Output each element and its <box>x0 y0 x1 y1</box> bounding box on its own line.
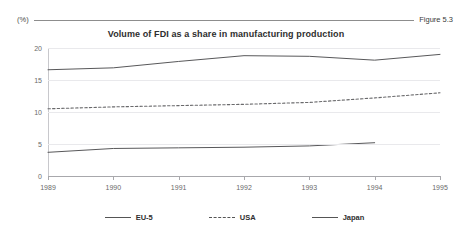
x-tick-label-1991: 1991 <box>171 184 187 191</box>
legend-swatch-japan-icon <box>312 217 338 218</box>
figure-number: Figure 5.3 <box>419 16 453 24</box>
series-line-usa <box>48 93 440 109</box>
x-tick-1993 <box>309 176 310 180</box>
y-tick-label-5: 5 <box>22 141 42 148</box>
y-tick-label-15: 15 <box>22 77 42 84</box>
gridline-5 <box>48 144 440 145</box>
legend-label: USA <box>240 214 256 222</box>
gridline-20 <box>48 48 440 49</box>
x-tick-label-1992: 1992 <box>236 184 252 191</box>
x-tick-label-1995: 1995 <box>432 184 448 191</box>
series-line-eu-5 <box>48 54 440 69</box>
figure-header: (%) Figure 5.3 <box>17 12 453 28</box>
x-tick-label-1990: 1990 <box>106 184 122 191</box>
x-tick-label-1993: 1993 <box>302 184 318 191</box>
x-tick-1995 <box>440 176 441 180</box>
x-tick-label-1994: 1994 <box>367 184 383 191</box>
header-divider <box>34 20 415 21</box>
x-tick-1990 <box>113 176 114 180</box>
y-axis-labels: 05101520 <box>20 48 42 176</box>
x-tick-1994 <box>375 176 376 180</box>
x-axis-labels: 1989199019911992199319941995 <box>48 184 440 196</box>
plot-canvas <box>48 48 440 176</box>
y-unit-label: (%) <box>17 16 29 24</box>
legend-swatch-eu-5-icon <box>105 217 131 218</box>
plot-area: 05101520 1989199019911992199319941995 <box>0 48 469 188</box>
figure-page: (%) Figure 5.3 Volume of FDI as a share … <box>0 0 469 241</box>
x-tick-1991 <box>179 176 180 180</box>
y-tick-label-20: 20 <box>22 45 42 52</box>
legend-item-usa[interactable]: USA <box>209 214 256 222</box>
legend-label: Japan <box>343 214 365 222</box>
gridline-15 <box>48 80 440 81</box>
y-tick-label-0: 0 <box>22 173 42 180</box>
legend-item-japan[interactable]: Japan <box>312 214 365 222</box>
chart-legend: EU-5USAJapan <box>0 214 469 222</box>
legend-swatch-usa-icon <box>209 217 235 218</box>
y-tick-label-10: 10 <box>22 109 42 116</box>
legend-item-eu-5[interactable]: EU-5 <box>105 214 153 222</box>
x-tick-label-1989: 1989 <box>40 184 56 191</box>
x-tick-1989 <box>48 176 49 180</box>
x-tick-1992 <box>244 176 245 180</box>
legend-label: EU-5 <box>136 214 153 222</box>
chart-title: Volume of FDI as a share in manufacturin… <box>0 29 452 39</box>
gridline-10 <box>48 112 440 113</box>
